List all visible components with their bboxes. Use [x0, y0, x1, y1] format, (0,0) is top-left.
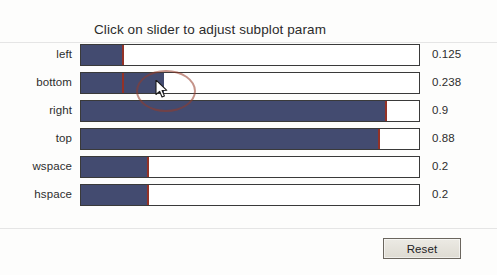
slider-track-left[interactable]	[80, 44, 420, 66]
slider-value-right: 0.9	[432, 104, 448, 116]
slider-marker-top	[378, 129, 380, 149]
slider-label-wspace: wspace	[0, 160, 72, 172]
slider-row-left[interactable]: left 0.125	[0, 44, 497, 72]
slider-marker-hspace	[147, 185, 149, 205]
slider-row-top[interactable]: top 0.88	[0, 128, 497, 156]
slider-value-hspace: 0.2	[432, 188, 448, 200]
slider-row-right[interactable]: right 0.9	[0, 100, 497, 128]
slider-value-wspace: 0.2	[432, 160, 448, 172]
slider-track-bottom[interactable]	[80, 72, 420, 94]
slider-fill-wspace	[81, 157, 149, 177]
slider-marker-bottom	[122, 73, 124, 93]
slider-label-left: left	[0, 48, 72, 60]
scan-artifact-top	[0, 42, 497, 43]
subplot-tool-window: Click on slider to adjust subplot param …	[0, 0, 497, 275]
slider-row-bottom[interactable]: bottom 0.238	[0, 72, 497, 100]
slider-value-left: 0.125	[432, 48, 461, 60]
slider-row-wspace[interactable]: wspace 0.2	[0, 156, 497, 184]
slider-label-hspace: hspace	[0, 188, 72, 200]
slider-fill-left	[81, 45, 124, 65]
slider-fill-right	[81, 101, 387, 121]
slider-track-wspace[interactable]	[80, 156, 420, 178]
slider-list: left 0.125 bottom 0.238 right 0.9 t	[0, 44, 497, 212]
slider-value-top: 0.88	[432, 132, 455, 144]
page-title: Click on slider to adjust subplot param	[0, 22, 420, 37]
slider-label-top: top	[0, 132, 72, 144]
slider-value-bottom: 0.238	[432, 76, 461, 88]
slider-fill-top	[81, 129, 380, 149]
scan-artifact-bottom	[0, 228, 497, 229]
reset-button[interactable]: Reset	[383, 238, 461, 259]
slider-marker-wspace	[147, 157, 149, 177]
slider-label-right: right	[0, 104, 72, 116]
slider-row-hspace[interactable]: hspace 0.2	[0, 184, 497, 212]
slider-label-bottom: bottom	[0, 76, 72, 88]
slider-marker-left	[122, 45, 124, 65]
slider-fill-hspace	[81, 185, 149, 205]
slider-track-hspace[interactable]	[80, 184, 420, 206]
slider-track-right[interactable]	[80, 100, 420, 122]
slider-track-top[interactable]	[80, 128, 420, 150]
slider-marker-right	[385, 101, 387, 121]
